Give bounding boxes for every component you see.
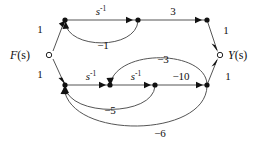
arrowhead-top-2-3 xyxy=(195,17,202,23)
gain-label-minus-10: −10 xyxy=(172,70,190,82)
gain-label-top-1-2: s-1 xyxy=(96,4,107,17)
node-top-1 xyxy=(62,17,67,22)
gain-label-minus-1: −1 xyxy=(97,39,109,51)
gain-label-minus-6: −6 xyxy=(154,127,166,139)
gain-label-top-2-3: 3 xyxy=(170,5,176,17)
gain-label-minus-3: −3 xyxy=(157,53,169,65)
gain-label-input-bottom: 1 xyxy=(37,68,43,80)
gain-label-top-output: 1 xyxy=(223,24,229,36)
arrowhead-bottom-3-4 xyxy=(196,82,203,88)
gain-label-minus-5: −5 xyxy=(104,104,116,116)
arrowhead-bottom-1-2 xyxy=(99,82,106,88)
node-bottom-1 xyxy=(62,82,67,87)
arrowhead-bottom-2-3 xyxy=(144,82,151,88)
node-bottom-3 xyxy=(152,82,157,87)
node-top-3 xyxy=(204,17,209,22)
arrowhead-top-1-2 xyxy=(126,17,133,23)
node-top-2 xyxy=(135,17,140,22)
node-bottom-4 xyxy=(204,82,209,87)
node-output-open-circle xyxy=(217,52,222,57)
signal-flow-graph-figure: F(s) Y(s) 1 s-1 3 1 −1 1 s-1 s-1 −10 1 −… xyxy=(0,0,268,145)
gain-label-bottom-1-2: s-1 xyxy=(86,69,97,82)
edge-top-to-output xyxy=(207,20,217,50)
input-label: F(s) xyxy=(9,48,30,62)
node-input-open-circle xyxy=(46,52,51,57)
gain-label-input-top: 1 xyxy=(37,23,43,35)
graph-canvas: F(s) Y(s) 1 s-1 3 1 −1 1 s-1 s-1 −10 1 −… xyxy=(0,0,268,145)
output-label: Y(s) xyxy=(228,48,247,62)
gain-label-bottom-output: 1 xyxy=(225,70,231,82)
node-bottom-2 xyxy=(107,82,112,87)
gain-label-bottom-2-3: s-1 xyxy=(131,69,142,82)
